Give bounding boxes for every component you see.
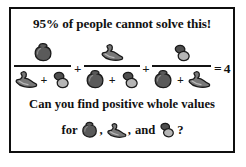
fraction-term-3: +: [152, 41, 211, 92]
puzzle-card: 95% of people cannot solve this!: [9, 7, 235, 153]
for-word: for: [60, 123, 78, 138]
fraction-2-numerator: [100, 41, 124, 65]
stone-icon: [157, 122, 176, 138]
question-mark: ?: [177, 123, 183, 138]
plus-operator: +: [107, 74, 118, 86]
boot-icon: [100, 43, 124, 62]
fraction-term-2: +: [84, 41, 140, 92]
fraction-3-denominator: +: [152, 67, 211, 92]
pot-icon: [84, 69, 106, 90]
plus-operator-outer-2: +: [140, 61, 152, 77]
plus-operator: +: [39, 74, 50, 86]
comma-1: ,: [100, 123, 105, 138]
stone-icon: [171, 44, 192, 62]
equation-result: = 4: [214, 61, 230, 77]
fraction-term-1: +: [14, 41, 72, 92]
question-line-1: Can you find positive whole values: [11, 97, 233, 112]
plus-operator: +: [175, 74, 186, 86]
pot-icon: [32, 42, 54, 63]
question-line-2: for , , and ?: [11, 121, 233, 139]
and-word: and: [134, 123, 156, 138]
pot-icon: [80, 121, 99, 139]
boot-icon: [106, 122, 127, 139]
page-title: 95% of people cannot solve this!: [11, 16, 233, 32]
equation: + +: [11, 39, 233, 94]
boot-icon: [187, 70, 211, 89]
comma-2: ,: [128, 123, 133, 138]
pot-icon: [152, 69, 174, 90]
fraction-3-numerator: [171, 41, 192, 65]
stone-icon: [119, 71, 140, 89]
stone-icon: [50, 71, 71, 89]
plus-operator-outer-1: +: [71, 61, 83, 77]
result-value: 4: [224, 61, 231, 77]
fraction-1-numerator: [32, 41, 54, 65]
fraction-2-denominator: +: [84, 67, 140, 92]
equals-sign: =: [214, 61, 224, 77]
boot-icon: [14, 70, 38, 89]
fraction-1-denominator: +: [14, 67, 72, 92]
